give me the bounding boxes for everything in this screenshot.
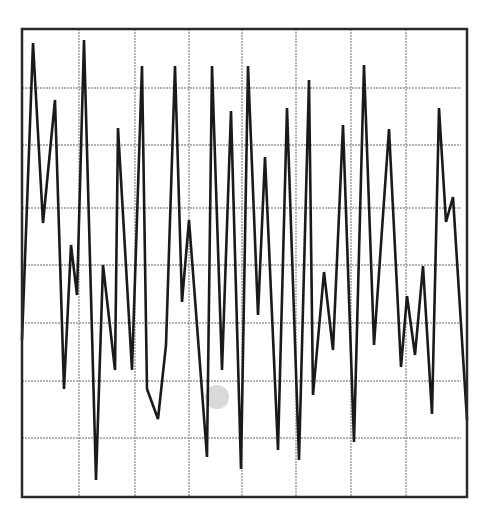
signal-trace <box>22 40 467 480</box>
line-chart <box>0 0 480 523</box>
